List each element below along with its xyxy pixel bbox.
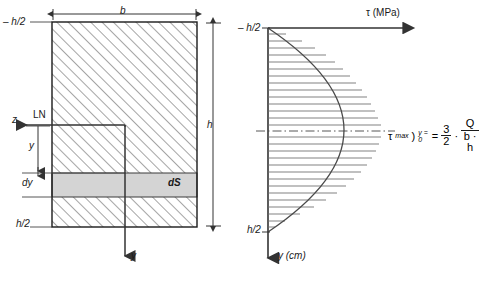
bottom-fiber-label-left: h/2 (16, 219, 30, 229)
bottom-fiber-label-right: h/2 (247, 225, 261, 235)
tau-closing-paren: ) (412, 130, 416, 142)
strip-thickness-label-dy: dy (22, 178, 33, 188)
height-label-h: h (207, 120, 213, 130)
y-axis-label-left: y (131, 251, 136, 261)
parabola-curve (268, 28, 344, 232)
parabola-fill-hatching (268, 34, 381, 227)
top-fiber-label-left: – h/2 (3, 17, 25, 27)
coefficient-fraction: 3 2 (441, 124, 451, 148)
equals-sign: = (432, 130, 438, 142)
shear-fraction: Q b · h (461, 118, 479, 154)
tau-condition: y = 0 (418, 129, 429, 143)
y-distance-label: y (29, 141, 34, 151)
coefficient-numerator: 3 (441, 124, 451, 136)
top-fiber-label-right: – h/2 (238, 23, 260, 33)
strip-area-label-dS: dS (168, 178, 181, 188)
neutral-axis-label-LN: LN (33, 110, 46, 120)
multiplication-dot: · (454, 130, 458, 142)
right-stress-group (256, 28, 404, 258)
shear-denominator-bh: b · h (461, 130, 479, 154)
depth-axis-label: y (cm) (278, 251, 306, 261)
tau-symbol: τ (388, 130, 392, 142)
tau-max-formula: τmax)y = 0 = 3 2 · Q b · h (388, 118, 479, 154)
tau-axis-label: τ (MPa) (366, 8, 400, 18)
figure-canvas: b h – h/2 h/2 LN z y dy dS y τ (MPa) – h… (0, 0, 479, 282)
shear-numerator-Q: Q (461, 118, 479, 130)
z-axis-label: z (12, 115, 17, 125)
left-section-group (16, 9, 221, 256)
width-label-b: b (120, 6, 126, 16)
tau-max-subscript: max (395, 132, 408, 139)
coefficient-denominator: 2 (441, 135, 451, 148)
